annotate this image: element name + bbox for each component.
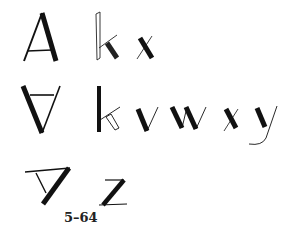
letter-k-outline [96, 12, 117, 60]
letter-inverted-A [23, 86, 60, 133]
letter-x [137, 36, 152, 59]
calligraphy-figure [0, 0, 300, 245]
letter-v [138, 107, 158, 131]
figure-caption: 5–64 [64, 210, 98, 225]
letter-z [99, 180, 127, 205]
letter-nabla [25, 168, 70, 204]
letter-k-filled [99, 86, 120, 132]
letter-w [172, 107, 206, 129]
letter-x-2 [224, 109, 238, 131]
letter-y [249, 106, 277, 144]
letter-A [24, 13, 56, 61]
